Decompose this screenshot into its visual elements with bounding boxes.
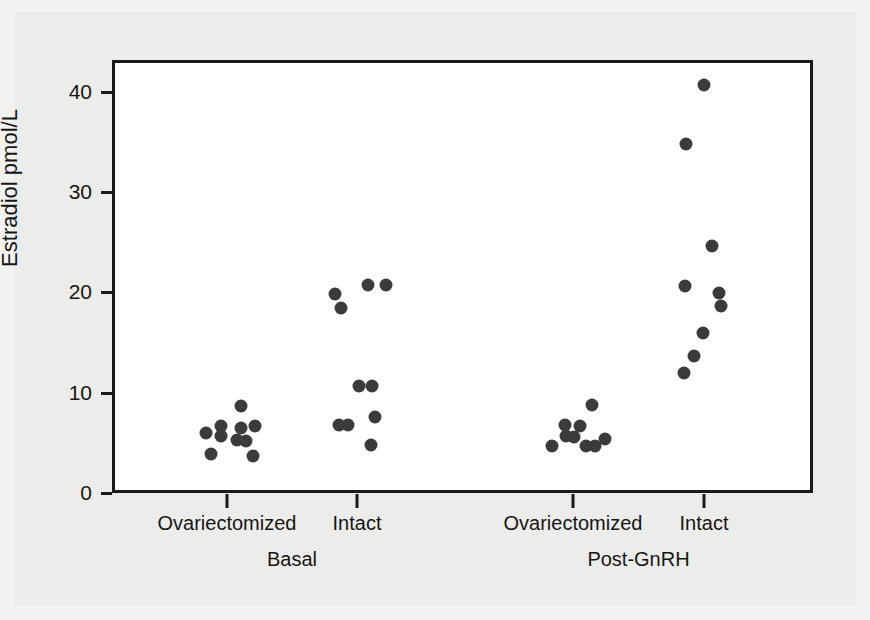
x-tick-mark — [703, 494, 706, 508]
data-point — [240, 434, 253, 447]
paper-edge-right — [856, 0, 870, 620]
x-tick-label: Ovariectomized — [504, 512, 643, 535]
x-tick-mark — [356, 494, 359, 508]
data-point — [215, 429, 228, 442]
data-point — [249, 419, 262, 432]
x-group-label: Basal — [267, 548, 317, 571]
data-point — [706, 240, 719, 253]
data-point — [680, 137, 693, 150]
y-tick-mark — [101, 191, 112, 194]
data-point — [688, 349, 701, 362]
data-point — [247, 449, 260, 462]
data-point — [678, 366, 691, 379]
x-tick-label: Intact — [680, 512, 729, 535]
y-tick-label: 10 — [17, 381, 92, 405]
data-point — [715, 300, 728, 313]
x-tick-label: Intact — [333, 512, 382, 535]
y-tick-mark — [101, 91, 112, 94]
y-tick-mark — [101, 492, 112, 495]
data-point — [713, 287, 726, 300]
data-point — [586, 398, 599, 411]
x-tick-mark — [226, 494, 229, 508]
y-tick-mark — [101, 392, 112, 395]
data-point — [205, 447, 218, 460]
plot-area — [112, 60, 813, 493]
data-point — [568, 430, 581, 443]
data-point — [200, 426, 213, 439]
x-tick-mark — [572, 494, 575, 508]
paper-edge-bottom — [0, 606, 870, 620]
data-point — [589, 439, 602, 452]
data-point — [366, 379, 379, 392]
data-point — [329, 288, 342, 301]
data-point — [546, 439, 559, 452]
data-point — [365, 438, 378, 451]
y-tick-label: 20 — [17, 280, 92, 304]
y-tick-label: 0 — [17, 481, 92, 505]
y-tick-mark — [101, 291, 112, 294]
data-point — [362, 279, 375, 292]
data-point — [380, 279, 393, 292]
data-point — [698, 78, 711, 91]
data-point — [335, 302, 348, 315]
x-group-label: Post-GnRH — [587, 548, 689, 571]
data-point — [342, 418, 355, 431]
data-point — [353, 379, 366, 392]
data-point — [679, 280, 692, 293]
data-point — [697, 326, 710, 339]
x-tick-label: Ovariectomized — [158, 512, 297, 535]
data-point — [235, 421, 248, 434]
y-tick-label: 40 — [17, 80, 92, 104]
data-point — [369, 410, 382, 423]
y-tick-label: 30 — [17, 180, 92, 204]
figure-container: Estradiol pmol/L 010203040 Ovariectomize… — [0, 0, 870, 620]
data-point — [235, 399, 248, 412]
paper-edge-top — [0, 0, 870, 12]
